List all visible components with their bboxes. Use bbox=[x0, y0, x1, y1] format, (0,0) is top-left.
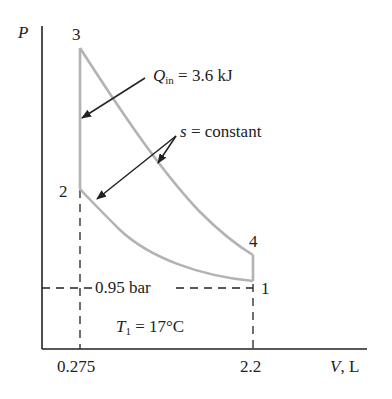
point-4-label: 4 bbox=[249, 233, 258, 250]
x-axis-var: V bbox=[330, 357, 340, 376]
x-tick-22: 2.2 bbox=[240, 358, 261, 375]
s-arrow-bottom bbox=[97, 136, 176, 199]
point-2-label: 2 bbox=[59, 183, 68, 200]
qin-var: Q bbox=[153, 66, 165, 85]
s-arrow-top bbox=[158, 136, 176, 163]
t1-label: T1 = 17°C bbox=[116, 318, 184, 337]
s-constant-label: s = constant bbox=[180, 123, 261, 140]
x-tick-0275: 0.275 bbox=[57, 358, 95, 375]
qin-sub: in bbox=[165, 74, 174, 86]
s-var: s bbox=[180, 122, 187, 141]
y-axis-label: P bbox=[18, 24, 28, 41]
x-axis-label: V, L bbox=[330, 358, 359, 375]
point-1-label: 1 bbox=[261, 280, 270, 297]
qin-value: = 3.6 kJ bbox=[174, 66, 233, 85]
qin-arrow bbox=[82, 78, 145, 118]
s-value: = constant bbox=[187, 122, 262, 141]
t1-value: = 17°C bbox=[131, 317, 184, 336]
qin-label: Qin = 3.6 kJ bbox=[153, 67, 233, 86]
x-axis-unit: , L bbox=[340, 357, 359, 376]
point-3-label: 3 bbox=[72, 26, 81, 43]
pressure-label: 0.95 bar bbox=[95, 279, 151, 296]
